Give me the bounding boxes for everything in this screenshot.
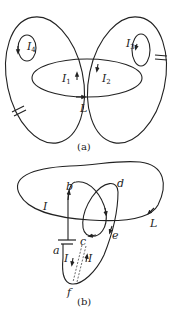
label-I1: I1: [61, 72, 71, 86]
left-loop: [0, 9, 95, 150]
cut-line-1: [73, 245, 82, 282]
circuit-loop: [63, 182, 118, 284]
label-d: d: [117, 177, 124, 190]
label-I-left: I: [63, 252, 69, 265]
label-a: a: [53, 244, 60, 257]
cut-line-2: [77, 246, 86, 282]
label-L-b: L: [149, 217, 157, 230]
label-e: e: [112, 229, 119, 242]
loop-L-b: [17, 162, 163, 221]
battery-right-icon: [155, 55, 167, 56]
diagram-canvas: I4 I3 I1 I2 L (a) b d I L e c a I I: [0, 0, 172, 309]
caption-b: (b): [77, 296, 91, 307]
label-I-right: I: [87, 252, 93, 265]
label-I2: I2: [101, 72, 111, 86]
right-loop: [77, 9, 172, 150]
figure-a: I4 I3 I1 I2 L (a): [0, 9, 172, 152]
caption-a: (a): [77, 141, 91, 152]
label-I-outer: I: [42, 200, 48, 213]
figure-b: b d I L e c a I I f (b): [17, 162, 163, 307]
label-L: L: [79, 102, 87, 115]
label-I3: I3: [125, 37, 135, 51]
label-c: c: [80, 235, 86, 248]
label-f: f: [66, 286, 73, 299]
label-b: b: [66, 180, 73, 193]
